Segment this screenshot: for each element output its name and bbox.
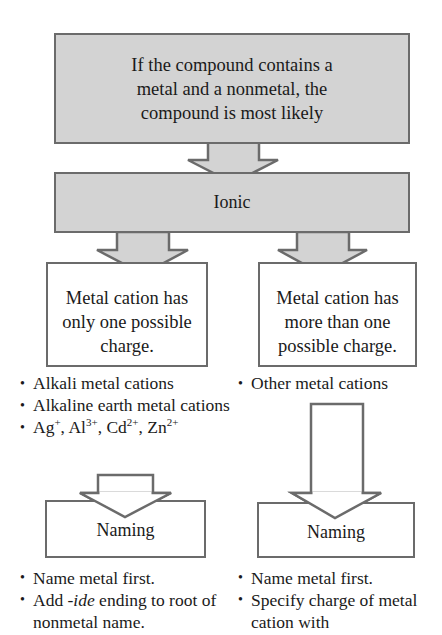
- naming-rules-right: Name metal first. Specify charge of meta…: [238, 567, 418, 633]
- list-item: Alkali metal cations: [20, 374, 235, 393]
- naming-label: Naming: [97, 519, 155, 542]
- naming-box-right: Naming: [257, 502, 415, 558]
- multiple-charge-text: Metal cation has more than one possible …: [268, 286, 407, 358]
- list-item: Name metal first.: [238, 567, 418, 589]
- ionic-label: Ionic: [214, 191, 251, 214]
- single-charge-examples: Alkali metal cations Alkaline earth meta…: [20, 374, 235, 437]
- single-charge-box: Metal cation has only one possible charg…: [46, 262, 208, 367]
- naming-label: Naming: [307, 521, 365, 544]
- list-item: Add -ide ending to root of nonmetal name…: [20, 589, 235, 633]
- list-item: Name metal first.: [20, 567, 235, 589]
- list-item: Specify charge of metal cation with: [238, 589, 418, 633]
- compound-condition-text: If the compound contains a metal and a n…: [116, 53, 348, 125]
- arrow-down-icon: [292, 404, 381, 518]
- naming-box-left: Naming: [45, 500, 206, 558]
- ionic-box: Ionic: [54, 172, 410, 233]
- ion-list-item: Ag+, Al3+, Cd2+, Zn2+: [20, 418, 235, 437]
- compound-condition-box: If the compound contains a metal and a n…: [54, 33, 410, 144]
- multiple-charge-box: Metal cation has more than one possible …: [258, 262, 417, 367]
- single-charge-text: Metal cation has only one possible charg…: [60, 286, 194, 358]
- list-item: Other metal cations: [238, 374, 438, 393]
- naming-rules-left: Name metal first. Add -ide ending to roo…: [20, 567, 235, 633]
- multiple-charge-examples: Other metal cations: [238, 374, 438, 393]
- list-item: Alkaline earth metal cations: [20, 396, 235, 415]
